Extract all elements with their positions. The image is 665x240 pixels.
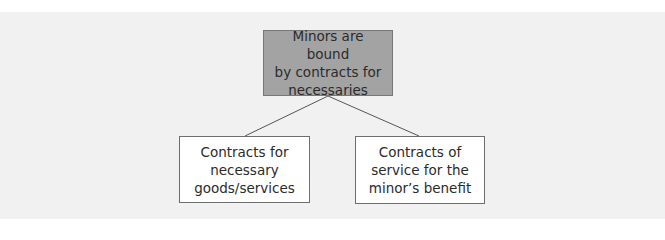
child-node-necessary-goods: Contracts for necessary goods/services: [179, 136, 310, 203]
child-node-label: Contracts for necessary goods/services: [194, 143, 295, 197]
root-node: Minors are bound by contracts for necess…: [263, 30, 393, 96]
root-node-label: Minors are bound by contracts for necess…: [272, 27, 384, 99]
child-node-service-contracts: Contracts of service for the minor’s ben…: [355, 136, 485, 204]
connector-root-to-left: [245, 96, 328, 136]
child-node-label: Contracts of service for the minor’s ben…: [369, 143, 471, 197]
connector-root-to-right: [328, 96, 419, 136]
